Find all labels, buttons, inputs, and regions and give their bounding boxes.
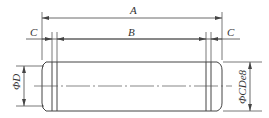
dimension-a-label: A <box>129 4 137 16</box>
dimension-c-right-label: C <box>227 26 235 38</box>
pin-body <box>42 62 222 111</box>
dimension-c-left-label: C <box>30 26 38 38</box>
dimension-b-label: B <box>128 26 135 38</box>
pin-drawing: A C B C ΦD ΦCDe8 <box>0 0 269 118</box>
dimension-phi-cde8-label: ΦCDe8 <box>236 69 248 104</box>
dimension-phi-d-label: ΦD <box>10 74 22 90</box>
